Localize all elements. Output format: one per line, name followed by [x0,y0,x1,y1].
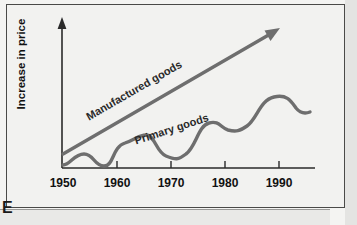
xtick-label-1980: 1980 [205,176,245,190]
scan-right-strip [345,0,357,225]
scan-bottom-strip [0,209,330,225]
xtick-label-1990: 1990 [259,176,299,190]
xtick-label-1970: 1970 [151,176,191,190]
xtick-label-1950: 1950 [43,176,83,190]
xtick-label-1960: 1960 [97,176,137,190]
figure-root: Increase in price 1950 1960 1970 1980 19… [0,0,357,225]
figure-letter-marker: E [2,200,13,216]
y-axis [58,17,67,168]
y-axis-label: Increase in price [15,9,27,119]
